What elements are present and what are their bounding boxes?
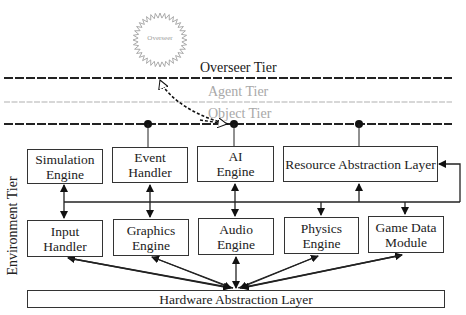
object-tier-label: Object Tier: [208, 106, 271, 122]
agent-tier-label: Agent Tier: [208, 84, 268, 100]
simulation-engine-box: Simulation Engine: [27, 149, 103, 184]
audio-engine-box: Audio Engine: [198, 218, 274, 255]
physics-engine-box: Physics Engine: [284, 217, 359, 254]
input-handler-box: Input Handler: [27, 220, 103, 257]
resource-abstraction-layer-box: Resource Abstraction Layer: [283, 146, 438, 182]
overseer-tier-label: Overseer Tier: [200, 60, 277, 76]
overseer-label: Overseer: [140, 34, 180, 42]
graphics-engine-box: Graphics Engine: [113, 219, 189, 256]
ai-engine-box: AI Engine: [197, 146, 274, 182]
game-data-module-box: Game Data Module: [368, 216, 444, 253]
hardware-abstraction-layer-box: Hardware Abstraction Layer: [27, 290, 445, 308]
environment-tier-label: Environment Tier: [5, 168, 21, 284]
event-handler-box: Event Handler: [112, 147, 188, 183]
